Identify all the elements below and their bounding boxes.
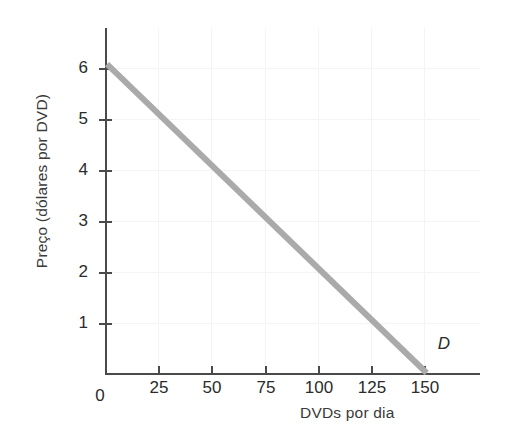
y-axis-title: Preço (dólares por DVD) [33, 51, 51, 311]
x-axis-title: DVDs por dia [300, 404, 395, 422]
y-tick-label: 6 [79, 58, 88, 78]
curve-label-d: D [438, 334, 450, 354]
x-tick-label: 25 [150, 378, 169, 398]
x-tick-label: 150 [411, 378, 439, 398]
x-tick-label: 75 [257, 378, 276, 398]
x-tick-label: 50 [203, 378, 222, 398]
series-d-path [107, 64, 427, 373]
plot-area: 6 5 4 3 2 1 0 25 50 75 100 [105, 28, 480, 375]
y-tick-label: 2 [79, 262, 88, 282]
demand-curve-line [105, 28, 480, 375]
y-tick-label: 1 [79, 313, 88, 333]
y-tick-label: 3 [79, 211, 88, 231]
y-tick-label: 5 [79, 109, 88, 129]
y-tick-label: 4 [79, 160, 88, 180]
x-tick-label: 125 [358, 378, 386, 398]
x-tick-label: 0 [95, 386, 104, 406]
x-tick-label: 100 [305, 378, 333, 398]
demand-curve-chart: Preço (dólares por DVD) DVDs por dia 6 5… [0, 0, 508, 447]
